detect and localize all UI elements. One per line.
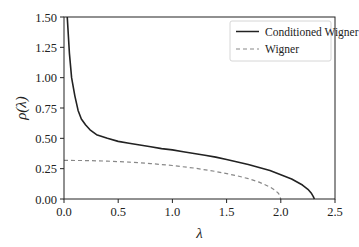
x-tick-label: 2.5 bbox=[327, 205, 343, 219]
y-axis-ticks: 0.000.250.500.751.001.251.50 bbox=[35, 11, 64, 207]
legend-label-wigner: Wigner bbox=[265, 43, 299, 56]
y-axis-label: ρ(λ) bbox=[13, 96, 30, 121]
chart: 0.00.51.01.52.02.5 0.000.250.500.751.001… bbox=[0, 0, 359, 247]
x-axis-ticks: 0.00.51.01.52.02.5 bbox=[56, 199, 343, 219]
y-tick-label: 0.50 bbox=[35, 132, 57, 146]
x-axis-label: λ bbox=[195, 225, 203, 241]
legend-label-conditioned-wigner: Conditioned Wigner bbox=[265, 26, 359, 39]
y-tick-label: 1.25 bbox=[35, 41, 57, 55]
x-tick-label: 0.0 bbox=[56, 205, 72, 219]
x-tick-label: 1.5 bbox=[219, 205, 235, 219]
x-tick-label: 0.5 bbox=[110, 205, 126, 219]
x-tick-label: 1.0 bbox=[165, 205, 181, 219]
y-tick-label: 0.25 bbox=[35, 162, 57, 176]
wigner-curve bbox=[64, 160, 281, 199]
x-tick-label: 2.0 bbox=[273, 205, 289, 219]
legend: Conditioned Wigner Wigner bbox=[230, 21, 359, 61]
y-tick-label: 0.75 bbox=[35, 102, 57, 116]
y-tick-label: 1.50 bbox=[35, 11, 57, 25]
y-tick-label: 1.00 bbox=[35, 71, 57, 85]
y-tick-label: 0.00 bbox=[35, 193, 57, 207]
